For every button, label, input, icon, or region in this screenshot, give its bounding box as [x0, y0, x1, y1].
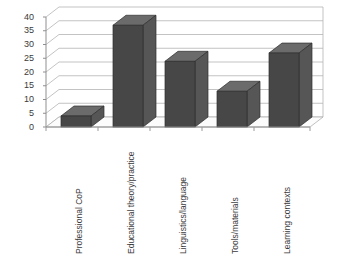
x-label-professional-cop: Professional CoP — [75, 188, 84, 254]
x-label-tools-materials: Tools/materials — [231, 197, 240, 254]
bar-chart: 40 35 30 25 20 15 10 5 0 Professional Co… — [0, 0, 337, 270]
y-tick-5: 5 — [8, 109, 34, 118]
x-label-linguistics-language: Linguistics/language — [179, 177, 188, 254]
bar-learning-contexts — [269, 43, 312, 127]
y-tick-10: 10 — [8, 95, 34, 104]
y-tick-20: 20 — [8, 68, 34, 77]
y-tick-35: 35 — [8, 26, 34, 35]
x-label-learning-contexts: Learning contexts — [283, 187, 292, 254]
y-tick-25: 25 — [8, 54, 34, 63]
bar-linguistics-language — [165, 51, 208, 127]
y-tick-30: 30 — [8, 40, 34, 49]
bar-tools-materials — [217, 81, 260, 127]
y-tick-40: 40 — [8, 13, 34, 22]
depth-connectors — [46, 7, 59, 127]
bar-educational-theory-practice — [113, 15, 156, 127]
plot-area: 40 35 30 25 20 15 10 5 0 Professional Co… — [0, 0, 337, 270]
y-tick-0: 0 — [8, 123, 34, 132]
x-axis-ticks — [46, 127, 310, 131]
y-tick-15: 15 — [8, 81, 34, 90]
x-label-educational-theory-practice: Educational theory/practice — [127, 151, 136, 254]
